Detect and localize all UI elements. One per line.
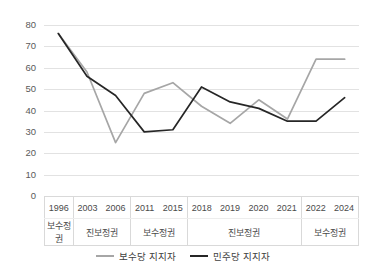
x-axis-year-2018: 2018 (187, 197, 216, 219)
x-axis-category-table: 1996200320062011201520182019202020212022… (44, 196, 359, 246)
legend-item-1[interactable]: 민주당 지지자 (190, 249, 270, 263)
y-axis-label-60: 60 (4, 63, 36, 73)
y-axis-tick-labels: 80706050403020100 (0, 0, 40, 277)
x-axis-year-2003: 2003 (73, 197, 102, 219)
line-chart: 80706050403020100 1996200320062011201520… (0, 0, 366, 277)
series-lines (44, 25, 359, 196)
chart-legend: 보수당 지지자민주당 지지자 (0, 249, 366, 263)
legend-line-icon (190, 255, 208, 257)
x-axis-year-2020: 2020 (244, 197, 273, 219)
y-axis-label-50: 50 (4, 84, 36, 94)
x-axis-group-0-보수정권: 보수정권 (45, 219, 74, 246)
x-axis-group-2-보수정권: 보수정권 (130, 219, 187, 246)
y-axis-label-70: 70 (4, 41, 36, 51)
plot-area (44, 25, 359, 196)
x-axis-group-row: 보수정권진보정권보수정권진보정권보수정권 (45, 219, 359, 246)
y-axis-label-0: 0 (4, 191, 36, 201)
x-axis-year-2015: 2015 (159, 197, 188, 219)
legend-line-icon (96, 255, 114, 257)
x-axis-year-1996: 1996 (45, 197, 74, 219)
series-line-민주당 지지자 (58, 34, 344, 132)
x-axis-year-2011: 2011 (130, 197, 159, 219)
x-axis-group-1-진보정권: 진보정권 (73, 219, 130, 246)
x-axis-group-3-진보정권: 진보정권 (187, 219, 301, 246)
x-axis-year-2006: 2006 (102, 197, 131, 219)
y-axis-label-20: 20 (4, 148, 36, 158)
x-axis-year-2024: 2024 (330, 197, 359, 219)
x-axis-year-2021: 2021 (273, 197, 302, 219)
x-axis-year-2019: 2019 (216, 197, 245, 219)
y-axis-label-10: 10 (4, 170, 36, 180)
x-axis-group-4-보수정권: 보수정권 (301, 219, 358, 246)
x-axis-year-2022: 2022 (301, 197, 330, 219)
y-axis-label-30: 30 (4, 127, 36, 137)
y-axis-label-40: 40 (4, 106, 36, 116)
legend-label: 민주당 지지자 (213, 249, 270, 263)
legend-item-0[interactable]: 보수당 지지자 (96, 249, 176, 263)
x-axis-year-row: 1996200320062011201520182019202020212022… (45, 197, 359, 219)
legend-label: 보수당 지지자 (119, 249, 176, 263)
y-axis-label-80: 80 (4, 20, 36, 30)
